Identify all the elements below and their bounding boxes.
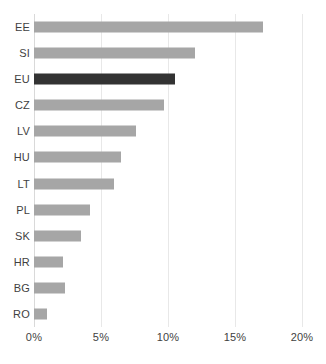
category-label-ro: RO — [13, 308, 30, 320]
bar-ro — [34, 308, 47, 319]
category-label-hr: HR — [14, 256, 30, 268]
bar-chart: EESIEUCZLVHULTPLSKHRBGRO 0%5%10%15%20% — [0, 0, 326, 364]
bar-row: RO — [34, 301, 302, 327]
bar-lt — [34, 178, 114, 189]
bar-pl — [34, 204, 90, 215]
category-label-sk: SK — [15, 230, 30, 242]
bar-row: LT — [34, 171, 302, 197]
bar-rows: EESIEUCZLVHULTPLSKHRBGRO — [34, 14, 302, 327]
plot-area: EESIEUCZLVHULTPLSKHRBGRO — [34, 14, 302, 327]
bar-ee — [34, 22, 263, 33]
bar-row: EE — [34, 14, 302, 40]
bar-row: BG — [34, 275, 302, 301]
bar-bg — [34, 282, 65, 293]
bar-row: SI — [34, 40, 302, 66]
gridline-20pct — [302, 14, 303, 327]
bar-row: EU — [34, 66, 302, 92]
bar-eu — [34, 74, 175, 85]
x-tick-label: 10% — [157, 331, 180, 343]
x-tick-label: 0% — [26, 331, 42, 343]
bar-lv — [34, 126, 136, 137]
category-label-eu: EU — [14, 73, 30, 85]
category-label-cz: CZ — [15, 99, 30, 111]
x-axis: 0%5%10%15%20% — [34, 331, 302, 351]
bar-hr — [34, 256, 63, 267]
bar-row: HR — [34, 249, 302, 275]
bar-row: HU — [34, 144, 302, 170]
bar-hu — [34, 152, 121, 163]
bar-row: LV — [34, 118, 302, 144]
category-label-lt: LT — [18, 178, 30, 190]
bar-row: PL — [34, 197, 302, 223]
category-label-lv: LV — [17, 125, 30, 137]
x-tick-label: 5% — [93, 331, 109, 343]
category-label-bg: BG — [14, 282, 30, 294]
category-label-pl: PL — [16, 204, 30, 216]
bar-row: SK — [34, 223, 302, 249]
bar-row: CZ — [34, 92, 302, 118]
category-label-si: SI — [19, 47, 30, 59]
bar-cz — [34, 100, 164, 111]
x-tick-label: 15% — [224, 331, 247, 343]
category-label-hu: HU — [14, 151, 30, 163]
bar-si — [34, 48, 195, 59]
category-label-ee: EE — [15, 21, 30, 33]
bar-sk — [34, 230, 81, 241]
x-tick-label: 20% — [291, 331, 314, 343]
